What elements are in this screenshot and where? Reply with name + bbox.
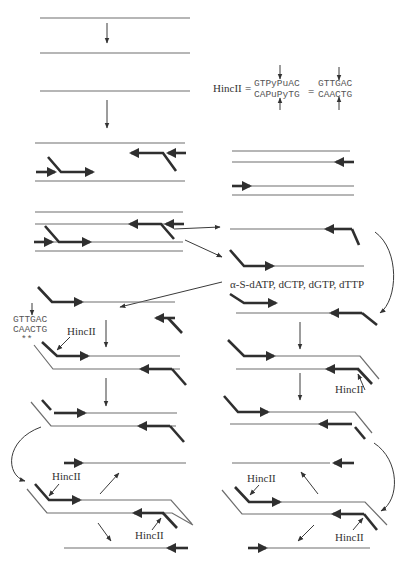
hincii-label: HincII	[247, 472, 276, 484]
hincii-label: HincII	[52, 470, 81, 482]
flow-arrow-icon	[98, 523, 111, 541]
step-2-single-strands	[232, 151, 354, 195]
enzyme-name: HincII	[213, 82, 242, 94]
curved-arrow-icon	[374, 443, 394, 511]
site-specific-top: GTTGAC	[318, 78, 353, 89]
pointer-arrow-icon	[250, 485, 259, 495]
curved-arrow-icon	[12, 427, 41, 481]
flow-arrow-icon	[185, 240, 222, 257]
flow-arrow-icon	[120, 282, 222, 307]
step-1-duplex	[40, 18, 190, 128]
hincii-label: HincII	[67, 325, 96, 337]
hincii-label: HincII	[335, 383, 364, 395]
nucleotides-label: α-S-dATP, dCTP, dGTP, dTTP	[230, 278, 364, 290]
hincii-definition: HincII = GTPyPuAC CAPuPyTG = GTTGAC CAAC…	[213, 65, 353, 110]
site-specific-bottom: CAACTG	[318, 89, 353, 100]
pointer-arrow-icon	[57, 337, 70, 350]
flow-arrow-icon	[100, 473, 119, 494]
left-step-5: HincII HincII	[12, 400, 193, 548]
flow-arrow-icon	[301, 472, 318, 494]
flow-arrow-icon	[298, 525, 314, 541]
curved-arrow-icon	[375, 232, 394, 313]
pointer-arrow-icon	[49, 484, 59, 496]
left-step-4: GTTGAC CAACTG ** HincII	[13, 287, 186, 406]
hemi-site-marks: **	[21, 334, 32, 345]
hincii-label: HincII	[135, 529, 164, 541]
right-step-4: HincII	[228, 294, 379, 400]
flow-arrow-icon	[174, 227, 220, 229]
step-2-primed-duplex	[35, 143, 186, 181]
svg-text:=: =	[245, 82, 251, 94]
sda-diagram: HincII = GTPyPuAC CAPuPyTG = GTTGAC CAAC…	[0, 0, 413, 564]
pointer-arrow-icon	[353, 518, 363, 530]
hincii-label: HincII	[335, 531, 364, 543]
svg-text:=: =	[308, 85, 314, 97]
site-generic-bottom: CAPuPyTG	[254, 89, 300, 100]
step-3-extension	[34, 212, 222, 257]
site-generic-top: GTPyPuAC	[254, 78, 300, 89]
right-step-5: HincII HincII	[222, 396, 394, 548]
